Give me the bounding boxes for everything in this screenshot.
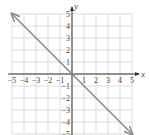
y-axis-label: y: [73, 1, 78, 11]
x-axis-label: x: [140, 69, 145, 79]
x-tick-label: 4: [118, 76, 122, 85]
y-tick-label: 3: [66, 34, 70, 43]
y-tick-label: −4: [61, 118, 70, 127]
y-tick-label: 5: [66, 10, 70, 19]
x-tick-label: −3: [32, 76, 41, 85]
x-tick-label: 2: [94, 76, 98, 85]
x-tick-label: −2: [44, 76, 53, 85]
y-tick-label: 1: [66, 58, 70, 67]
plot-area: −5−4−3−2−11234554321−1−2−3−4−5 x y: [0, 0, 149, 135]
y-tick-label: −3: [61, 106, 70, 115]
y-tick-label: −2: [61, 94, 70, 103]
x-tick-label: −4: [20, 76, 29, 85]
y-tick-label: −5: [61, 130, 70, 135]
x-tick-label: 3: [106, 76, 110, 85]
x-tick-label: 5: [130, 76, 134, 85]
coordinate-plane-chart: −5−4−3−2−11234554321−1−2−3−4−5 x y: [0, 0, 149, 135]
y-tick-label: 2: [66, 46, 70, 55]
x-tick-label: −5: [8, 76, 17, 85]
y-tick-label: 4: [66, 22, 70, 31]
y-tick-label: −1: [61, 82, 70, 91]
